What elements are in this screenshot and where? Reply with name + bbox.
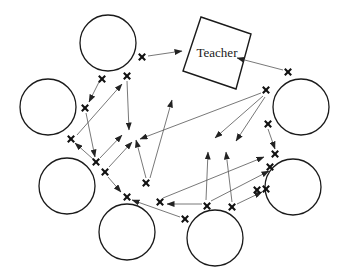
cross-marker-icon: [99, 76, 105, 82]
cross-marker-icon: [82, 105, 88, 111]
arrow: [89, 82, 99, 102]
arrow: [211, 171, 269, 201]
cross-marker-icon: [124, 73, 130, 79]
communication-diagram: Teacher: [0, 0, 347, 280]
student-circle: [273, 79, 329, 135]
arrow: [226, 152, 232, 202]
cross-marker-icon: [139, 54, 145, 60]
cross-marker-icon: [68, 136, 74, 142]
student-circle: [265, 159, 321, 215]
cross-marker-icon: [102, 169, 108, 175]
cross-marker-icon: [267, 164, 273, 170]
arrow: [237, 192, 262, 204]
teacher-node: Teacher: [183, 17, 251, 89]
cross-marker-icon: [204, 203, 210, 209]
cross-marker-icon: [263, 87, 269, 93]
cross-marker-icon: [182, 216, 188, 222]
student-circle: [80, 15, 136, 71]
arrows-group: [75, 51, 283, 217]
cross-marker-icon: [254, 187, 260, 193]
cross-marker-icon: [124, 194, 130, 200]
cross-marker-icon: [272, 151, 278, 157]
crosses-group: [68, 54, 291, 222]
arrow: [236, 97, 265, 141]
arrow: [132, 200, 180, 217]
arrow: [127, 81, 129, 130]
arrow: [148, 51, 182, 56]
student-circle: [39, 158, 95, 214]
cross-marker-icon: [285, 69, 291, 75]
student-circle: [20, 79, 76, 135]
cross-marker-icon: [229, 204, 235, 210]
arrow: [215, 96, 263, 138]
arrow: [136, 140, 146, 178]
cross-marker-icon: [263, 186, 269, 192]
teacher-label: Teacher: [197, 45, 239, 60]
arrow: [268, 129, 275, 149]
arrow: [100, 135, 122, 158]
arrow: [163, 157, 264, 198]
cross-marker-icon: [157, 199, 163, 205]
student-circle: [99, 204, 155, 260]
arrow: [150, 100, 172, 178]
cross-marker-icon: [143, 180, 149, 186]
arrow: [237, 58, 283, 70]
arrow: [75, 143, 93, 159]
arrow: [109, 142, 132, 167]
arrow: [140, 93, 261, 139]
cross-marker-icon: [265, 121, 271, 127]
arrow: [108, 177, 121, 192]
cross-marker-icon: [93, 159, 99, 165]
students-group: [20, 15, 329, 266]
arrow: [206, 152, 208, 200]
student-circle: [187, 210, 243, 266]
